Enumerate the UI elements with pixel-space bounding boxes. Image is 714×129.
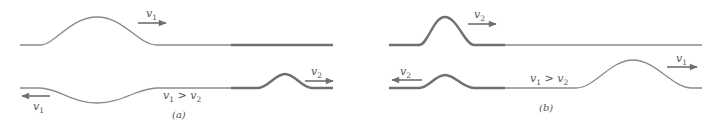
wave-reflection-diagram: v1 v1 v2 v1 > v2 (a) v2 v2	[0, 0, 714, 129]
transmitted-velocity-label: v2	[311, 65, 322, 80]
panel-b-after: v2 v1 v1 > v2	[389, 52, 702, 88]
panel-a-after: v1 v2 v1 > v2	[20, 65, 333, 115]
panel-b-before: v2	[389, 8, 702, 45]
reflected-velocity-label: v2	[400, 65, 411, 80]
velocity-relation: v1 > v2	[530, 72, 568, 87]
velocity-label: v1	[146, 7, 157, 22]
panel-b: v2 v2 v1 v1 > v2 (b)	[389, 8, 702, 113]
velocity-label: v2	[474, 8, 485, 23]
transmitted-velocity-label: v1	[676, 52, 687, 67]
velocity-relation: v1 > v2	[163, 89, 201, 104]
reflected-velocity-label: v1	[33, 100, 44, 115]
panel-a-caption: (a)	[172, 109, 186, 120]
thin-string-with-pulse	[20, 17, 231, 45]
panel-a-before: v1	[20, 7, 333, 45]
thick-string-with-pulse	[389, 17, 505, 45]
panel-b-caption: (b)	[539, 102, 553, 113]
panel-a: v1 v1 v2 v1 > v2 (a)	[20, 7, 333, 120]
